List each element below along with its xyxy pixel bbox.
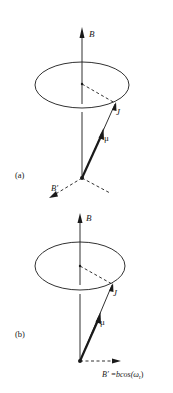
mu-label: μ bbox=[100, 317, 105, 327]
b-field-label: B bbox=[86, 213, 92, 223]
j-label: J bbox=[113, 288, 118, 298]
panel-a-label: (a) bbox=[15, 170, 25, 180]
b-field-label: B bbox=[89, 29, 95, 39]
j-label: J bbox=[116, 107, 121, 117]
mu-vector bbox=[82, 134, 102, 178]
b-prime-arrowhead-icon bbox=[112, 359, 121, 364]
mu-vector bbox=[80, 318, 99, 361]
mu-label: μ bbox=[104, 133, 109, 143]
b-field-arrowhead-icon bbox=[80, 27, 85, 38]
panel-b: B J μ B′ =bcos(ωr) (b) bbox=[15, 213, 144, 380]
b-field-arrowhead-icon bbox=[78, 213, 83, 223]
b-prime-label: B′ bbox=[51, 183, 58, 193]
b-prime-vector bbox=[54, 178, 82, 195]
panel-a: B J μ B′ (a) bbox=[15, 27, 129, 198]
b-prime-label: B′ =bcos(ωr) bbox=[102, 370, 144, 380]
radius-dashed bbox=[82, 84, 115, 103]
precession-diagram: B J μ B′ (a) B J bbox=[0, 0, 173, 393]
axis-dashed-right bbox=[82, 178, 110, 193]
panel-b-label: (b) bbox=[15, 329, 25, 339]
radius-dashed bbox=[80, 266, 112, 284]
